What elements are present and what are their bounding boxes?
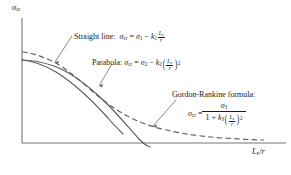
straight-line-name: Straight line:	[74, 32, 116, 41]
annotation-straight-line: Straight line: σcr = σ1 − k1Ler	[74, 31, 165, 44]
buckling-formula-figure: σcr Le/r Straight line: σcr = σ1 − k1Ler…	[0, 0, 291, 175]
gordon-paren-close: )	[237, 113, 239, 127]
parabola-slenderness-term: (Ler)2	[162, 58, 180, 72]
parabola-paren-open: (	[163, 58, 165, 71]
leader-line-straight	[55, 36, 72, 62]
annotation-parabola: Parabola: σcr = σ2 − k2(Ler)2	[92, 58, 180, 72]
parabola-slenderness-fraction: Ler	[166, 59, 173, 72]
gordon-exponent: 2	[240, 115, 243, 121]
parabola-sigma2-sub: 2	[145, 61, 148, 67]
gordon-denominator: 1 + k3(Ler)2	[202, 111, 245, 127]
gordon-frac-L-sub: e	[233, 117, 235, 121]
straight-slenderness-fraction: Ler	[158, 31, 165, 44]
parabola-equals: =	[134, 58, 139, 67]
gordon-numerator: σ3	[202, 101, 245, 111]
gordon-frac-denominator: r	[229, 121, 236, 128]
straight-frac-numerator: Le	[158, 31, 165, 37]
straight-minus: −	[145, 32, 150, 41]
gordon-den-plus: +	[211, 113, 216, 122]
x-axis-label: Le/r	[252, 147, 265, 156]
gordon-frac-numerator: Le	[229, 115, 236, 121]
gordon-rankine-title: Gordon-Rankine formula:	[172, 91, 255, 99]
straight-sigma-cr-sub: cr	[124, 35, 128, 41]
x-axis-rest: /r	[259, 146, 265, 156]
parabola-frac-denominator: r	[166, 65, 173, 72]
parabola-paren-close: )	[174, 58, 176, 71]
gordon-slenderness-term: (Ler)2	[224, 113, 242, 127]
y-axis-subscript: cr	[16, 6, 20, 12]
gordon-paren-open: (	[225, 113, 227, 127]
straight-frac-L-sub: e	[162, 33, 164, 37]
parabola-name: Parabola:	[92, 58, 122, 67]
gordon-sigma-cr-sub: cr	[192, 112, 196, 118]
annotation-gordon-rankine: Gordon-Rankine formula: σcr =σ31 + k3(Le…	[172, 91, 255, 127]
chart-canvas	[0, 0, 291, 175]
gordon-den-one: 1	[205, 113, 209, 122]
curve-parabola	[22, 60, 150, 147]
gordon-main-fraction: σ31 + k3(Ler)2	[202, 101, 245, 127]
straight-equals: =	[130, 32, 135, 41]
parabola-sigma-cr-sub: cr	[128, 61, 132, 67]
gordon-rankine-equation: σcr =σ31 + k3(Ler)2	[188, 101, 255, 127]
gordon-slenderness-fraction: Ler	[229, 115, 236, 128]
gordon-lhs: σcr =	[188, 110, 202, 118]
parabola-exponent: 2	[178, 60, 181, 66]
parabola-minus: −	[149, 58, 154, 67]
straight-sigma1-sub: 1	[140, 35, 143, 41]
leader-lines-group	[55, 36, 176, 128]
gordon-sigma3-sub: 3	[225, 105, 228, 111]
straight-frac-denominator: r	[158, 37, 165, 44]
y-axis-label: σcr	[12, 3, 20, 12]
